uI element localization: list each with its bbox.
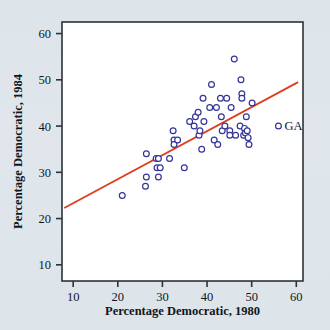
data-point xyxy=(199,146,205,152)
data-point xyxy=(191,123,197,129)
x-tick-label: 30 xyxy=(156,290,169,304)
x-tick-label: 50 xyxy=(245,290,258,304)
y-tick-label: 50 xyxy=(39,73,52,87)
x-tick-label: 20 xyxy=(112,290,125,304)
x-axis-ticks: 102030405060 xyxy=(67,281,303,304)
data-point xyxy=(243,114,249,120)
x-tick-label: 10 xyxy=(67,290,80,304)
y-axis-title: Percentage Democratic, 1984 xyxy=(11,73,25,229)
y-tick-label: 30 xyxy=(39,166,52,180)
data-point xyxy=(181,165,187,171)
data-point xyxy=(218,95,224,101)
x-tick-label: 40 xyxy=(201,290,214,304)
data-point xyxy=(201,119,207,125)
data-point xyxy=(170,128,176,134)
data-point xyxy=(187,119,193,125)
data-point xyxy=(215,142,221,148)
data-point xyxy=(246,142,252,148)
data-point xyxy=(143,174,149,180)
point-annotation-label: GA xyxy=(284,119,302,133)
figure-container: 102030405060 102030405060 GA Percentage … xyxy=(0,0,330,330)
data-point xyxy=(214,105,220,111)
data-point xyxy=(143,151,149,157)
y-tick-label: 40 xyxy=(39,120,52,134)
data-point xyxy=(209,82,215,88)
data-point xyxy=(156,156,162,162)
data-point xyxy=(276,123,282,129)
data-point xyxy=(239,95,245,101)
data-point xyxy=(157,165,163,171)
data-point xyxy=(222,123,228,129)
y-tick-label: 20 xyxy=(39,212,52,226)
data-point xyxy=(195,109,201,115)
y-tick-label: 10 xyxy=(39,258,52,272)
plot-background-layer xyxy=(62,22,303,281)
data-point xyxy=(119,193,125,199)
data-point xyxy=(175,137,181,143)
data-point xyxy=(200,95,206,101)
plot-area xyxy=(62,22,303,281)
scatter-plot: 102030405060 102030405060 GA Percentage … xyxy=(0,0,330,330)
data-point xyxy=(218,114,224,120)
data-point xyxy=(233,132,239,138)
data-point xyxy=(156,174,162,180)
data-point xyxy=(227,132,233,138)
y-tick-label: 60 xyxy=(39,27,52,41)
data-point xyxy=(249,100,255,106)
y-axis-ticks: 102030405060 xyxy=(39,27,63,272)
data-point xyxy=(143,183,149,189)
data-point xyxy=(197,128,203,134)
data-point xyxy=(244,128,250,134)
data-point xyxy=(167,156,173,162)
x-axis-title: Percentage Democratic, 1980 xyxy=(105,304,260,318)
data-point xyxy=(207,105,213,111)
data-point xyxy=(238,77,244,83)
annotations-layer: GA xyxy=(284,119,302,133)
data-point xyxy=(245,135,251,141)
data-point xyxy=(228,105,234,111)
data-point xyxy=(231,56,237,62)
x-tick-label: 60 xyxy=(290,290,303,304)
data-point xyxy=(224,95,230,101)
